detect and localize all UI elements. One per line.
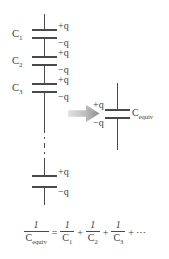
equation-term-3-denominator-sub: 3 xyxy=(120,238,123,245)
equation-ellipsis: ⋯ xyxy=(136,227,147,238)
last-capacitor-bottom-charge: −q xyxy=(58,187,69,197)
capacitor-1-label-sub: 1 xyxy=(19,34,23,42)
equation-term-2-denominator-sub: 2 xyxy=(95,238,98,245)
equation-term-2-fraction: 1 C2 xyxy=(86,220,100,245)
top-lead-wire xyxy=(44,14,45,29)
series-continuation-dashes xyxy=(44,128,45,158)
equivalent-capacitor-label-sub: equiv xyxy=(139,113,153,120)
last-capacitor-top-plate xyxy=(32,175,57,177)
capacitor-3-label: C3 xyxy=(12,83,23,96)
capacitor-1-label-text: C xyxy=(12,28,19,39)
equivalent-top-lead-wire xyxy=(117,83,118,109)
equation-lhs-denominator: Cequiv xyxy=(24,232,49,245)
last-capacitor-bottom-charge-text: −q xyxy=(58,186,69,197)
equation-lhs-fraction: 1 Cequiv xyxy=(24,220,49,245)
capacitor-1-top-plate xyxy=(32,29,57,31)
capacitor-3-bottom-charge: −q xyxy=(58,92,69,102)
equivalent-bottom-charge: −q xyxy=(93,118,104,128)
equation-term-3-fraction: 1 C3 xyxy=(111,220,125,245)
capacitor-1-top-charge: +q xyxy=(58,21,69,31)
capacitor-3-label-text: C xyxy=(12,82,19,93)
wire-c1-to-c2 xyxy=(44,38,45,56)
capacitor-2-top-plate xyxy=(32,56,57,58)
series-capacitance-equation: 1 Cequiv = 1 C1 + 1 C2 + 1 C3 + ⋯ xyxy=(0,220,169,245)
wire-below-c3 xyxy=(44,92,45,128)
equivalent-capacitor-label: Cequiv xyxy=(132,108,153,121)
equation-term-2-numerator: 1 xyxy=(88,220,97,231)
equivalent-bottom-charge-text: −q xyxy=(93,117,104,128)
capacitor-3-label-sub: 3 xyxy=(19,88,23,96)
capacitor-2-label-text: C xyxy=(12,55,19,66)
capacitor-3-top-plate xyxy=(32,83,57,85)
last-capacitor-top-charge-text: +q xyxy=(58,166,69,177)
capacitor-2-top-charge-text: +q xyxy=(58,47,69,58)
equation-term-1-numerator: 1 xyxy=(63,220,72,231)
equivalent-capacitor-top-plate xyxy=(105,109,130,111)
wire-to-last-capacitor xyxy=(44,158,45,175)
equation-plus-1: + xyxy=(77,227,83,238)
last-capacitor-top-charge: +q xyxy=(58,167,69,177)
equation-term-2-denominator: C2 xyxy=(86,232,100,245)
wire-c2-to-c3 xyxy=(44,65,45,83)
capacitor-2-label-sub: 2 xyxy=(19,61,23,69)
capacitor-2-top-charge: +q xyxy=(58,48,69,58)
equation-lhs-numerator: 1 xyxy=(32,220,41,231)
capacitor-3-top-charge: +q xyxy=(58,75,69,85)
equation-equals-sign: = xyxy=(52,227,58,238)
capacitor-3-top-charge-text: +q xyxy=(58,74,69,85)
equation-term-2-denominator-text: C xyxy=(88,232,95,243)
capacitor-3-bottom-charge-text: −q xyxy=(58,91,69,102)
capacitors-in-series-figure: C1 +q −q C2 +q −q C3 +q −q +q xyxy=(0,0,169,259)
equivalent-top-charge-text: +q xyxy=(93,99,104,110)
equation-plus-2: + xyxy=(103,227,109,238)
equation-term-1-denominator: C1 xyxy=(60,232,74,245)
equation-term-1-denominator-sub: 1 xyxy=(69,238,72,245)
equation-term-1-denominator-text: C xyxy=(62,232,69,243)
equation-term-3-denominator: C3 xyxy=(111,232,125,245)
equation-lhs-denominator-sub: equiv xyxy=(32,238,46,245)
capacitor-1-label: C1 xyxy=(12,29,23,42)
equivalent-capacitor-label-text: C xyxy=(132,107,139,118)
equivalent-bottom-lead-wire xyxy=(117,117,118,150)
capacitor-1-top-charge-text: +q xyxy=(58,20,69,31)
capacitor-2-label: C2 xyxy=(12,56,23,69)
bottom-lead-wire xyxy=(44,187,45,205)
equation-term-3-numerator: 1 xyxy=(114,220,123,231)
equivalent-top-charge: +q xyxy=(93,100,104,110)
equation-plus-3: + xyxy=(128,227,134,238)
equation-term-1-fraction: 1 C1 xyxy=(60,220,74,245)
